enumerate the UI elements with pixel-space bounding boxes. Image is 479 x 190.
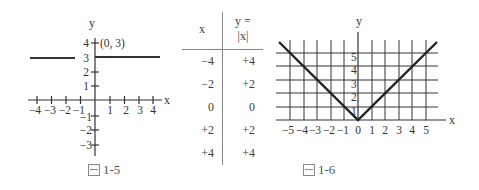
abs-value-table: x y = |x| −4 +4 −2 +2 0 0 +2 +2 +4 +4	[182, 12, 264, 165]
table-cell: 0	[223, 96, 264, 119]
table-row: +2 +2	[182, 119, 263, 142]
fig5-x-tick: −1	[73, 104, 85, 116]
figure-1-5-caption: 1-5	[88, 162, 120, 178]
fig6-y-tick: 2	[351, 91, 357, 103]
fig5-x-axis-label: x	[164, 93, 170, 107]
table-cell: +4	[182, 142, 223, 165]
fig6-x-tick: 2	[382, 124, 388, 136]
fig5-x-tick: −3	[44, 104, 56, 116]
caption-text: 1-6	[318, 162, 335, 178]
figure-icon	[88, 164, 100, 176]
figure-1-6-graph: y x 1 2 3 4 5 −5 −4 −3 −2 −1 0 1 2 3 4 5	[276, 14, 455, 136]
fig5-point-label: (0, 3)	[100, 37, 125, 50]
table-cell: −4	[182, 50, 223, 74]
fig6-x-tick: 4	[409, 124, 415, 136]
fig6-y-tick: 4	[351, 64, 357, 76]
fig6-y-axis-label: y	[356, 14, 362, 28]
figure-1-6-caption: 1-6	[303, 162, 335, 178]
fig6-y-tick: 5	[351, 51, 357, 63]
table-cell: 0	[182, 96, 223, 119]
fig5-y-tick: 4	[83, 37, 89, 49]
fig5-x-tick: −4	[29, 104, 41, 116]
table-row: −2 +2	[182, 73, 263, 96]
fig5-y-tick: 3	[83, 52, 89, 64]
fig6-x-tick: −5	[282, 124, 294, 136]
fig5-y-tick: −2	[80, 124, 92, 136]
fig6-x-tick: 1	[369, 124, 375, 136]
table-cell: +2	[223, 119, 264, 142]
fig6-x-tick: −1	[337, 124, 349, 136]
fig5-y-tick: 1	[83, 80, 89, 92]
table-row: −4 +4	[182, 50, 263, 74]
fig5-x-tick: 4	[150, 104, 156, 116]
fig6-x-tick: 3	[396, 124, 402, 136]
fig6-x-axis-label: x	[449, 113, 455, 127]
caption-text: 1-5	[103, 162, 120, 178]
fig5-y-tick: 2	[83, 66, 89, 78]
fig6-x-tick: −3	[309, 124, 321, 136]
fig5-x-tick: 3	[137, 104, 143, 116]
table-header-y: y = |x|	[223, 12, 264, 50]
fig6-x-tick: 0	[355, 124, 361, 136]
table-cell: +2	[223, 73, 264, 96]
fig5-y-tick: −3	[80, 139, 92, 151]
table-cell: +2	[182, 119, 223, 142]
fig6-y-tick: 1	[351, 105, 357, 117]
table-row: 0 0	[182, 96, 263, 119]
figure-icon	[303, 164, 315, 176]
table-cell: −2	[182, 73, 223, 96]
table-header-x: x	[182, 12, 223, 50]
table-cell: +4	[223, 50, 264, 74]
fig6-x-tick: −2	[323, 124, 335, 136]
fig6-x-tick: −4	[296, 124, 308, 136]
fig6-x-tick: 5	[423, 124, 429, 136]
fig5-x-tick: −2	[59, 104, 71, 116]
table-row: +4 +4	[182, 142, 263, 165]
fig5-y-axis-label: y	[89, 16, 95, 30]
fig5-x-tick: 1	[107, 104, 113, 116]
fig5-x-tick: 2	[123, 104, 129, 116]
table-cell: +4	[223, 142, 264, 165]
fig6-y-tick: 3	[351, 78, 357, 90]
